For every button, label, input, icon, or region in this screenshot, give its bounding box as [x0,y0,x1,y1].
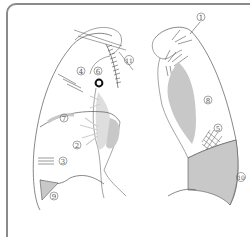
lung-diagram: 1 2 3 4 5 6 7 8 9 10 11 [0,0,250,237]
label-6: 6 [94,67,102,76]
label-3: 3 [59,157,67,166]
upper-lobe-shade [168,62,196,144]
svg-text:4: 4 [79,68,84,76]
svg-text:8: 8 [206,97,210,105]
svg-text:5: 5 [216,125,220,133]
label-2: 2 [73,141,81,150]
label-10: 10 [237,173,246,182]
svg-text:9: 9 [52,193,56,201]
left-lung [33,27,133,210]
mediastinal-border [106,44,118,88]
svg-text:3: 3 [61,158,65,166]
lines-3 [38,158,54,164]
hatching-11 [107,45,121,83]
label-4: 4 [77,67,85,76]
left-apex [75,27,122,54]
svg-text:1: 1 [199,14,203,22]
label-5: 5 [214,124,222,133]
svg-text:10: 10 [237,174,245,181]
right-lung [152,22,238,205]
lower-lobe-shade [188,140,238,205]
label-8: 8 [204,96,212,105]
label-9: 9 [50,192,58,201]
label-1: 1 [197,13,205,22]
apex-line-2 [78,36,126,50]
svg-text:6: 6 [96,68,101,76]
nodule-marker [96,80,103,87]
svg-text:2: 2 [75,142,79,150]
label-11: 11 [125,56,134,65]
svg-text:7: 7 [62,115,66,123]
label-7: 7 [60,114,68,123]
svg-text:11: 11 [125,57,133,64]
lines-4 [58,74,83,92]
